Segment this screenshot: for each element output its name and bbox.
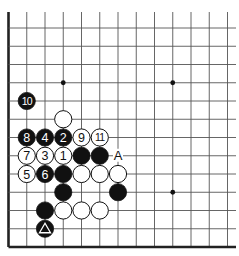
white-stone-1: 1 <box>55 147 72 164</box>
black-stone <box>55 184 72 201</box>
white-stone <box>91 165 108 182</box>
move-number: 9 <box>78 131 85 145</box>
white-stone <box>55 111 72 128</box>
white-stone <box>91 202 108 219</box>
star-point <box>61 80 66 85</box>
black-stone-4: 4 <box>36 129 53 146</box>
black-stone-10: 10 <box>18 92 35 109</box>
move-number: 7 <box>23 149 30 163</box>
white-stone <box>73 202 90 219</box>
white-stone <box>109 165 126 182</box>
move-number: 2 <box>60 131 67 145</box>
move-number: 4 <box>42 131 49 145</box>
move-number: 8 <box>23 131 30 145</box>
move-number: 11 <box>95 131 105 143</box>
move-number: 3 <box>42 149 49 163</box>
move-number: 6 <box>42 168 49 182</box>
go-board: A 1084291173156 <box>0 0 239 256</box>
white-stone <box>55 202 72 219</box>
white-stone-11: 11 <box>91 129 108 146</box>
stones: 1084291173156 <box>18 92 126 237</box>
white-stone-5: 5 <box>18 165 35 182</box>
black-stone <box>36 202 53 219</box>
point-labels: A <box>113 148 123 163</box>
white-stone-9: 9 <box>73 129 90 146</box>
black-stone-6: 6 <box>36 165 53 182</box>
black-stone <box>73 147 90 164</box>
black-stone <box>36 220 53 237</box>
point-label-a: A <box>114 148 123 163</box>
black-stone <box>109 184 126 201</box>
move-number: 10 <box>22 95 33 107</box>
move-number: 5 <box>23 168 30 182</box>
black-stone <box>55 165 72 182</box>
star-point <box>170 190 175 195</box>
black-stone-2: 2 <box>55 129 72 146</box>
star-point <box>170 80 175 85</box>
white-stone-7: 7 <box>18 147 35 164</box>
move-number: 1 <box>60 149 67 163</box>
black-stone-8: 8 <box>18 129 35 146</box>
black-stone <box>91 147 108 164</box>
white-stone <box>73 165 90 182</box>
white-stone-3: 3 <box>36 147 53 164</box>
